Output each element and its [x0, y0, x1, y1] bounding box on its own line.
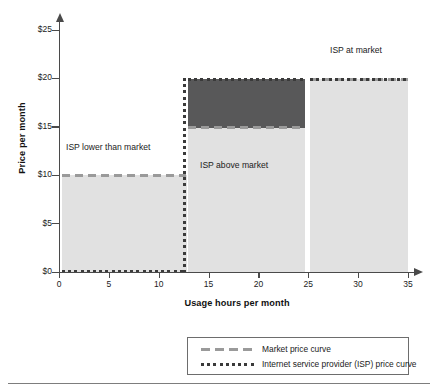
annotation-isp-above-market: ISP above market: [200, 160, 268, 170]
isp-curve-segment-high: [310, 78, 408, 81]
x-tick-label-30: 30: [343, 279, 373, 289]
y-axis-line: [59, 22, 60, 273]
y-tick-label-0: $0: [6, 267, 52, 276]
annotation-isp-at-market: ISP at market: [330, 45, 382, 55]
x-tick-label-10: 10: [144, 279, 174, 289]
x-tick-0: [59, 272, 60, 278]
isp-curve-vertical-jump: [183, 78, 186, 273]
y-tick-label-5: $5: [6, 219, 52, 228]
y-tick-25: [52, 30, 59, 31]
plot-area: $0 $5 $10 $15 $20 $25 0 5 10 15: [0, 0, 438, 391]
x-tick-label-0: 0: [44, 279, 74, 289]
y-tick-10: [52, 175, 59, 176]
x-tick-25: [308, 272, 309, 278]
x-tick-label-20: 20: [243, 279, 273, 289]
chart-legend: Market price curve Internet service prov…: [187, 337, 409, 375]
dashed-line-key-icon: [188, 343, 262, 355]
x-tick-label-5: 5: [94, 279, 124, 289]
legend-label-isp-price-curve: Internet service provider (ISP) price cu…: [262, 359, 417, 369]
x-tick-label-15: 15: [194, 279, 224, 289]
footer-divider: [8, 383, 430, 384]
x-tick-5: [109, 272, 110, 278]
x-tick-label-35: 35: [393, 279, 423, 289]
x-tick-20: [258, 272, 259, 278]
y-tick-label-15: $15: [6, 122, 52, 131]
y-tick-label-0-wrap: $0: [0, 267, 52, 277]
market-curve-segment-low: [62, 174, 186, 177]
y-axis-title: Price per month: [17, 68, 27, 208]
shaded-region-isp-cost-low: [62, 175, 187, 272]
x-tick-30: [358, 272, 359, 278]
y-tick-0: [52, 272, 59, 273]
y-tick-15: [52, 126, 59, 127]
dotted-line-key-icon: [188, 358, 262, 370]
shaded-region-isp-surplus: [188, 79, 305, 128]
x-axis-title: Usage hours per month: [59, 298, 415, 308]
y-tick-label-10: $10: [6, 170, 52, 179]
shaded-region-isp-cost-mid: [188, 128, 305, 273]
y-axis-arrow-icon: [56, 13, 64, 22]
x-axis-line: [59, 272, 415, 273]
y-tick-20: [52, 78, 59, 79]
y-tick-label-25: $25: [6, 25, 52, 34]
y-tick-label-5-wrap: $5: [0, 219, 52, 229]
x-axis-arrow-icon: [414, 268, 423, 276]
legend-item-isp-price-curve: Internet service provider (ISP) price cu…: [188, 357, 410, 371]
shaded-region-isp-cost-high: [310, 79, 408, 272]
isp-curve-segment-mid: [188, 78, 305, 81]
market-curve-segment-mid: [188, 126, 305, 129]
y-tick-label-25-wrap: $25: [0, 25, 52, 35]
region-divider-gap: [305, 79, 310, 272]
chart-figure: $0 $5 $10 $15 $20 $25 0 5 10 15: [0, 0, 438, 391]
y-tick-label-20: $20: [6, 73, 52, 82]
x-tick-label-25: 25: [293, 279, 323, 289]
annotation-isp-lower-than-market: ISP lower than market: [66, 142, 150, 152]
y-tick-5: [52, 223, 59, 224]
x-tick-10: [159, 272, 160, 278]
x-tick-15: [209, 272, 210, 278]
x-tick-35: [408, 272, 409, 278]
legend-label-market-price-curve: Market price curve: [262, 344, 331, 354]
legend-item-market-price-curve: Market price curve: [188, 342, 410, 356]
